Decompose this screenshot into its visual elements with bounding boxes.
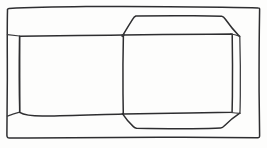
sketch-canvas: Hand-drawn box net sketch A hand-drawn l… [0, 0, 267, 148]
corner-tick-bottom-right [231, 113, 240, 114]
box-net-drawing [0, 0, 267, 148]
outer-border-path [7, 6, 260, 138]
bottom-flap-path [122, 113, 239, 129]
left-flap-path [7, 35, 19, 117]
inner-rectangle-path [19, 34, 232, 116]
right-flap-path [240, 36, 241, 113]
